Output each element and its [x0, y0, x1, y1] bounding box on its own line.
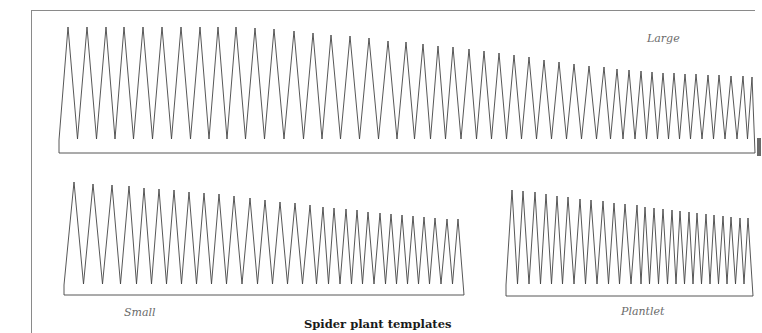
- plantlet-template: [506, 190, 753, 296]
- small-template-leaf-outline: [64, 182, 464, 295]
- large-template-label: Large: [647, 32, 680, 45]
- small-template-label: Small: [124, 306, 156, 319]
- frame-right-mark: [757, 138, 761, 156]
- small-template: [64, 182, 464, 295]
- page-frame: [32, 10, 762, 333]
- large-template: [59, 27, 755, 153]
- large-template-leaf-outline: [59, 27, 755, 153]
- plantlet-template-label: Plantlet: [621, 305, 664, 318]
- figure-caption: Spider plant templates: [304, 317, 451, 331]
- templates-canvas: [0, 0, 762, 333]
- plantlet-template-leaf-outline: [506, 190, 753, 296]
